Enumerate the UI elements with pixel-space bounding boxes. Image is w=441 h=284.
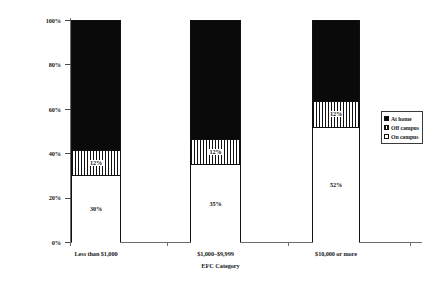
legend-item-at-home[interactable]: At home bbox=[384, 114, 419, 123]
category-label-3: $10,000 or more bbox=[276, 250, 396, 257]
legend-swatch-at-home-icon bbox=[384, 116, 389, 121]
bar-segment-at-home[interactable] bbox=[191, 21, 240, 139]
category-label-2: $1,000–$9,999 bbox=[156, 250, 276, 257]
y-tick-label: 80% bbox=[21, 61, 61, 68]
legend-swatch-on-campus-icon bbox=[384, 134, 389, 139]
y-tick-label: 100% bbox=[21, 17, 61, 24]
x-tick-mark bbox=[70, 242, 71, 246]
legend-label-on-campus: On campus bbox=[391, 134, 418, 140]
legend-label-off-campus: Off campus bbox=[391, 125, 419, 131]
x-tick-mark bbox=[410, 242, 411, 246]
x-tick-mark bbox=[167, 242, 168, 246]
bar-segment-at-home[interactable] bbox=[313, 21, 359, 101]
bar-2[interactable]: 12%35% bbox=[190, 20, 241, 242]
y-tick-label: 20% bbox=[21, 194, 61, 201]
bar-segment-on-campus[interactable]: 35% bbox=[191, 165, 240, 243]
bar-segment-off-campus[interactable]: 12% bbox=[72, 150, 120, 177]
segment-value-label: 52% bbox=[329, 182, 343, 189]
bar-segment-on-campus[interactable]: 52% bbox=[313, 128, 359, 243]
y-tick-label: 60% bbox=[21, 106, 61, 113]
stacked-bar-chart: 100%80%60%40%20%0% 12%30%12%35%12%52% Le… bbox=[0, 0, 441, 284]
bar-segment-off-campus[interactable]: 12% bbox=[191, 139, 240, 166]
y-tick-label: 0% bbox=[21, 239, 61, 246]
bar-segment-at-home[interactable] bbox=[72, 21, 120, 150]
bar-3[interactable]: 12%52% bbox=[312, 20, 360, 242]
segment-value-label: 30% bbox=[89, 206, 103, 213]
segment-value-label: 12% bbox=[208, 149, 222, 156]
legend-item-on-campus[interactable]: On campus bbox=[384, 132, 419, 141]
bar-1[interactable]: 12%30% bbox=[71, 20, 121, 242]
x-axis-line bbox=[70, 242, 422, 243]
y-tick-label: 40% bbox=[21, 150, 61, 157]
legend-swatch-off-campus-icon bbox=[384, 125, 389, 130]
bar-segment-off-campus[interactable]: 12% bbox=[313, 101, 359, 128]
segment-value-label: 35% bbox=[208, 201, 222, 208]
category-label-1: Less than $1,000 bbox=[36, 250, 156, 257]
bar-segment-on-campus[interactable]: 30% bbox=[72, 176, 120, 243]
segment-value-label: 12% bbox=[329, 111, 343, 118]
segment-value-label: 12% bbox=[89, 160, 103, 167]
x-axis-title: EFC Category bbox=[0, 262, 441, 269]
chart-legend: At home Off campus On campus bbox=[381, 111, 423, 144]
legend-label-at-home: At home bbox=[391, 116, 411, 122]
legend-item-off-campus[interactable]: Off campus bbox=[384, 123, 419, 132]
x-tick-mark bbox=[288, 242, 289, 246]
